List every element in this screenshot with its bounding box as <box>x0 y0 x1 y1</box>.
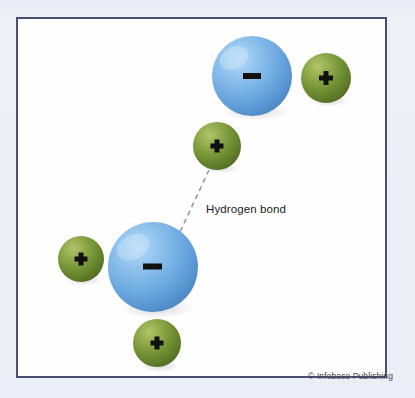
figure-plate <box>16 17 387 378</box>
figure-root: Hydrogen bond © Infobase Publishing <box>0 0 415 398</box>
figure-plate-inner <box>18 19 385 376</box>
hydrogen-bond-label: Hydrogen bond <box>206 203 286 215</box>
copyright-credit: © Infobase Publishing <box>308 371 393 381</box>
